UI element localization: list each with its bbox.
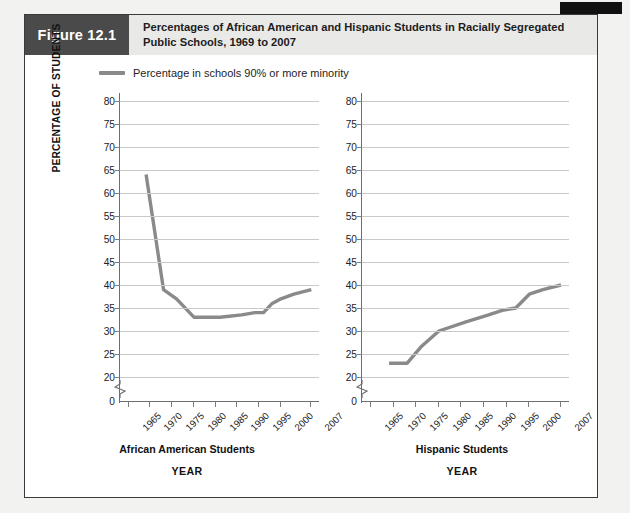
x-axis-tick bbox=[149, 402, 150, 407]
y-axis-tick bbox=[115, 124, 120, 125]
y-axis-tick bbox=[115, 331, 120, 332]
y-gridline bbox=[362, 193, 569, 194]
x-axis-tick bbox=[506, 402, 507, 407]
y-axis-tick-label: 80 bbox=[104, 96, 115, 107]
x-axis-tick bbox=[236, 402, 237, 407]
y-axis-tick bbox=[357, 377, 362, 378]
y-axis-tick bbox=[357, 285, 362, 286]
y-axis-tick-label: 30 bbox=[104, 326, 115, 337]
x-axis-tick bbox=[560, 402, 561, 407]
y-axis-tick-label: 25 bbox=[346, 349, 357, 360]
figure-title-band: Percentages of African American and Hisp… bbox=[129, 15, 597, 55]
y-axis-tick bbox=[115, 285, 120, 286]
y-gridline bbox=[120, 354, 319, 355]
series-line-african-american bbox=[120, 93, 320, 403]
y-axis-tick bbox=[357, 308, 362, 309]
y-axis-tick-label: 65 bbox=[104, 165, 115, 176]
y-axis-tick bbox=[357, 331, 362, 332]
panel-african-american: PERCENTAGE OF STUDENTS 80757065605550454… bbox=[49, 93, 325, 493]
y-axis-tick bbox=[115, 101, 120, 102]
y-gridline bbox=[120, 193, 319, 194]
y-axis-tick-label: 30 bbox=[346, 326, 357, 337]
y-axis-tick-label: 70 bbox=[104, 142, 115, 153]
y-axis-tick-label: 25 bbox=[104, 349, 115, 360]
x-axis-tick-label: 1970 bbox=[405, 410, 428, 433]
legend-line-swatch-icon bbox=[99, 71, 125, 75]
y-axis-tick bbox=[115, 308, 120, 309]
y-axis-labels-right: 807570656055504540353025200 bbox=[335, 93, 357, 403]
x-axis-tick bbox=[128, 402, 129, 407]
y-axis-tick bbox=[115, 377, 120, 378]
figure-container: Figure 12.1 Percentages of African Ameri… bbox=[24, 14, 598, 498]
x-axis-tick bbox=[193, 402, 194, 407]
y-gridline bbox=[120, 308, 319, 309]
x-axis-tick-label: 1965 bbox=[382, 410, 405, 433]
y-gridline bbox=[362, 308, 569, 309]
y-axis-tick-label: 50 bbox=[346, 234, 357, 245]
y-axis-tick-label: 75 bbox=[346, 119, 357, 130]
series-line-hispanic bbox=[362, 93, 570, 403]
y-gridline bbox=[120, 170, 319, 171]
y-axis-tick-label: 70 bbox=[346, 142, 357, 153]
x-axis-tick bbox=[460, 402, 461, 407]
x-axis-tick bbox=[393, 402, 394, 407]
y-gridline bbox=[120, 285, 319, 286]
y-gridline bbox=[362, 216, 569, 217]
y-axis-tick bbox=[115, 193, 120, 194]
y-gridline bbox=[120, 147, 319, 148]
y-axis-tick-label: 55 bbox=[346, 211, 357, 222]
x-axis-tick-label: 1990 bbox=[249, 410, 272, 433]
figure-number-label: Figure 12.1 bbox=[38, 27, 117, 43]
y-gridline bbox=[120, 239, 319, 240]
x-axis-tick bbox=[483, 402, 484, 407]
y-axis-tick bbox=[115, 262, 120, 263]
y-axis-tick bbox=[357, 147, 362, 148]
y-gridline bbox=[362, 239, 569, 240]
x-axis-title-right: YEAR bbox=[329, 465, 595, 477]
y-axis-tick-label: 60 bbox=[104, 188, 115, 199]
plot-frame-right bbox=[361, 93, 569, 403]
x-axis-tick bbox=[310, 402, 311, 407]
y-gridline bbox=[362, 147, 569, 148]
y-axis-tick-label: 35 bbox=[346, 303, 357, 314]
y-axis-tick bbox=[357, 216, 362, 217]
y-gridline bbox=[120, 124, 319, 125]
x-axis-tick bbox=[171, 402, 172, 407]
y-gridline bbox=[362, 170, 569, 171]
y-axis-tick-label: 65 bbox=[346, 165, 357, 176]
y-gridline bbox=[362, 354, 569, 355]
y-axis-tick bbox=[357, 354, 362, 355]
y-axis-tick bbox=[357, 101, 362, 102]
y-axis-tick-label: 45 bbox=[104, 257, 115, 268]
y-gridline bbox=[362, 331, 569, 332]
y-axis-tick bbox=[357, 193, 362, 194]
x-axis-tick-label: 1995 bbox=[518, 410, 541, 433]
x-axis-tick-label: 1990 bbox=[495, 410, 518, 433]
x-axis-tick-label: 1965 bbox=[140, 410, 163, 433]
x-axis-tick bbox=[215, 402, 216, 407]
y-axis-tick bbox=[357, 124, 362, 125]
data-series-line bbox=[146, 175, 311, 318]
x-axis-tick bbox=[370, 402, 371, 407]
y-gridline bbox=[362, 377, 569, 378]
x-axis-tick bbox=[280, 402, 281, 407]
x-axis-tick-label: 1975 bbox=[183, 410, 206, 433]
page-edge-mark bbox=[560, 2, 622, 14]
y-axis-tick-label: 55 bbox=[104, 211, 115, 222]
figure-title: Percentages of African American and Hisp… bbox=[143, 20, 587, 51]
chart-legend: Percentage in schools 90% or more minori… bbox=[99, 67, 349, 79]
y-axis-tick-label: 45 bbox=[346, 257, 357, 268]
figure-header: Figure 12.1 Percentages of African Ameri… bbox=[25, 15, 597, 55]
data-series-line bbox=[389, 285, 561, 363]
x-axis-tick bbox=[528, 402, 529, 407]
x-axis-tick-label: 1995 bbox=[270, 410, 293, 433]
y-gridline bbox=[362, 101, 569, 102]
panel-caption-african-american: African American Students bbox=[49, 443, 325, 455]
charts-row: PERCENTAGE OF STUDENTS 80757065605550454… bbox=[25, 93, 597, 493]
y-gridline bbox=[120, 377, 319, 378]
x-axis-tick-label: 1975 bbox=[428, 410, 451, 433]
legend-label: Percentage in schools 90% or more minori… bbox=[133, 67, 349, 79]
y-axis-tick-label: 75 bbox=[104, 119, 115, 130]
y-axis-labels-left: 807570656055504540353025200 bbox=[93, 93, 115, 403]
x-axis-tick-label: 1985 bbox=[227, 410, 250, 433]
